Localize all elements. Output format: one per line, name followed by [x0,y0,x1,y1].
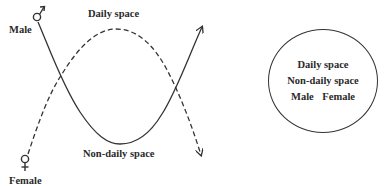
female-symbol-icon [21,155,28,171]
legend-male: Male [291,91,314,102]
male-label: Male [9,24,32,35]
legend-non-daily-space: Non-daily space [287,73,358,89]
male-symbol-icon [33,7,44,21]
legend-gender-row: Male Female [288,89,358,105]
female-label: Female [9,175,42,186]
legend-circle: Daily space Non-daily space Male Female [268,29,378,133]
daily-space-label: Daily space [88,8,139,19]
female-path-curve [28,29,201,155]
non-daily-space-label: Non-daily space [83,148,154,159]
legend-daily-space: Daily space [297,57,348,73]
legend-female: Female [322,91,355,102]
male-path-curve [38,22,202,144]
